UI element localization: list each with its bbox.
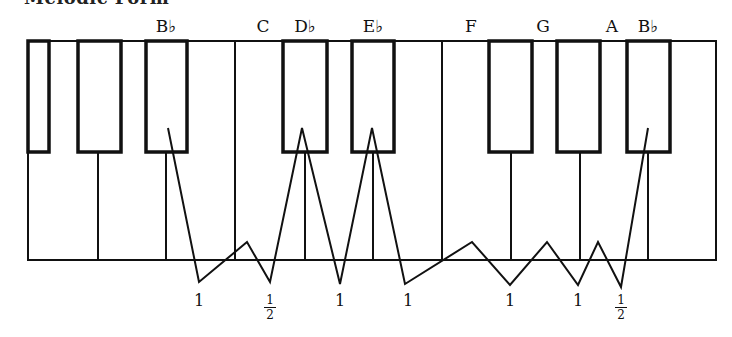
black-key — [557, 41, 600, 152]
interval-whole-step: 1 — [573, 291, 583, 310]
fraction-denominator: 2 — [266, 309, 274, 321]
black-key — [78, 41, 121, 152]
note-label: B♭ — [156, 16, 177, 36]
interval-whole-step: 1 — [505, 291, 515, 310]
fraction: 12 — [264, 294, 276, 321]
interval-whole-step: 1 — [194, 291, 204, 310]
note-label: C — [256, 16, 269, 36]
black-key — [489, 41, 532, 152]
black-key — [146, 41, 187, 152]
fraction-denominator: 2 — [617, 309, 625, 321]
note-label: F — [465, 16, 477, 36]
fraction-numerator: 1 — [266, 294, 274, 306]
interval-whole-step: 1 — [335, 291, 345, 310]
fraction: 12 — [615, 294, 627, 321]
black-key — [283, 41, 327, 152]
black-key — [28, 41, 49, 152]
interval-whole-step: 1 — [403, 291, 413, 310]
fraction-numerator: 1 — [617, 294, 625, 306]
black-key — [627, 41, 670, 152]
note-label: B♭ — [638, 16, 659, 36]
interval-half-step: 12 — [264, 289, 276, 321]
note-label: A — [606, 16, 618, 36]
note-label: E♭ — [363, 16, 383, 36]
note-label: D♭ — [294, 16, 316, 36]
note-label: G — [536, 16, 550, 36]
piano-keyboard — [0, 0, 732, 337]
interval-half-step: 12 — [615, 289, 627, 321]
